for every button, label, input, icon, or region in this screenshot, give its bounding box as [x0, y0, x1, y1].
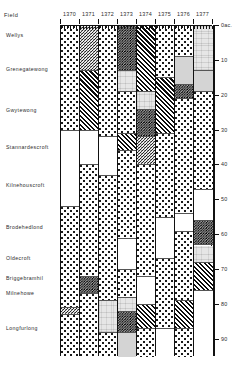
plot-cell-1377-lightgray	[194, 26, 213, 71]
acre-tick-20	[213, 95, 219, 96]
acre-label-30: 30	[221, 127, 228, 133]
plot-cell-1373-hatch	[118, 134, 136, 151]
plot-cell-1376-hatch	[175, 301, 193, 329]
plot-cell-1371-dense	[80, 277, 98, 294]
plot-cell-1373-dots	[118, 151, 136, 238]
plot-cell-1376-dense	[175, 85, 193, 99]
acre-label-10: 10	[221, 57, 228, 63]
acreage-axis-line	[213, 25, 215, 356]
year-column-1376	[175, 26, 194, 355]
field-label-stannardescroft: Stannardescroft	[6, 144, 49, 150]
year-label-1372: 1372	[101, 11, 114, 17]
field-label-milnehowe: Milnehowe	[6, 290, 34, 296]
field-label-oldecroft: Oldecroft	[6, 255, 31, 261]
column-top-serration	[118, 26, 136, 29]
plot-cell-1376-dots	[175, 26, 193, 57]
acre-label-60: 60	[221, 231, 228, 237]
plot-cell-1371-dots	[80, 294, 98, 357]
year-tick-1370	[60, 19, 61, 24]
field-label-briggebramhil: Briggebramhil	[6, 275, 43, 281]
year-tick-end	[212, 19, 213, 24]
column-top-serration	[99, 26, 117, 29]
plot-cell-1372-dots	[99, 176, 117, 301]
plot-cell-1374-dots	[137, 165, 155, 276]
plot-cell-1374-lightgray	[137, 92, 155, 109]
acre-label-70: 70	[221, 266, 228, 272]
plot-cell-1371-hatch	[80, 71, 98, 130]
plot-cell-1377-dots	[194, 92, 213, 190]
plot-cell-1373-lightgray	[118, 71, 136, 92]
acre-label-80: 80	[221, 301, 228, 307]
plot-cell-1370-stipple	[61, 308, 79, 315]
column-top-serration	[175, 26, 193, 29]
field-column-header: Field	[4, 12, 18, 18]
plot-cell-1373-dots	[118, 270, 136, 298]
year-tick-1372	[98, 19, 99, 24]
plot-cell-1373-dense	[118, 312, 136, 333]
acre-tick-10	[213, 60, 219, 61]
column-top-serration	[194, 26, 213, 29]
plot-cell-1372-dots	[99, 26, 117, 137]
plot-cell-1373-dense	[118, 26, 136, 71]
acre-tick-60	[213, 234, 219, 235]
year-label-1371: 1371	[82, 11, 95, 17]
plot-cell-1377-blank	[194, 190, 213, 221]
plot-cell-1374-dense	[137, 110, 155, 138]
plot-cell-1374-blank	[137, 277, 155, 305]
plot-cell-1371-blank	[80, 131, 98, 166]
year-column-1375	[156, 26, 175, 355]
plot-cell-1370-dots	[61, 315, 79, 357]
plot-cell-1374-dots	[137, 329, 155, 357]
plot-cell-1376-dots	[175, 99, 193, 214]
column-top-serration	[80, 26, 98, 29]
acre-tick-40	[213, 164, 219, 165]
column-top-serration	[61, 26, 79, 29]
year-label-1370: 1370	[63, 11, 76, 17]
plot-cell-1376-dots	[175, 329, 193, 357]
plot-cell-1373-gray	[118, 333, 136, 357]
plot-cell-1372-dots	[99, 333, 117, 357]
field-label-grenegatewong: Grenegatewong	[6, 66, 48, 72]
acre-tick-30	[213, 130, 219, 131]
land-use-plot	[60, 25, 212, 356]
field-label-wellys: Wellys	[6, 32, 24, 38]
year-tick-1371	[79, 19, 80, 24]
plot-cell-1373-blank	[118, 239, 136, 270]
year-tick-1374	[136, 19, 137, 24]
acre-tick-80	[213, 304, 219, 305]
acre-tick-50	[213, 199, 219, 200]
year-tick-1373	[117, 19, 118, 24]
plot-cell-1376-gray	[175, 57, 193, 85]
year-column-1377	[194, 26, 213, 355]
plot-cell-1376-blank	[175, 214, 193, 231]
plot-cell-1370-dots	[61, 26, 79, 131]
year-column-1371	[80, 26, 99, 355]
plot-cell-1374-hatch	[137, 305, 155, 329]
plot-cell-1373-dots	[118, 92, 136, 134]
field-label-kilnehouscroft: Kilnehouscroft	[6, 182, 44, 188]
acre-tick-90	[213, 339, 219, 340]
year-column-1373	[118, 26, 137, 355]
plot-cell-1377-blank	[194, 291, 213, 357]
plot-cell-1376-dots	[175, 232, 193, 302]
acre-label-20: 20	[221, 92, 228, 98]
plot-cell-1375-hatch	[156, 78, 174, 134]
plot-cell-1377-hatch	[194, 263, 213, 291]
column-top-serration	[156, 26, 174, 29]
acre-label-50: 50	[221, 196, 228, 202]
year-label-1374: 1374	[139, 11, 152, 17]
plot-cell-1371-dots	[80, 165, 98, 276]
year-tick-1375	[155, 19, 156, 24]
year-label-1376: 1376	[177, 11, 190, 17]
year-tick-1377	[193, 19, 194, 24]
plot-cell-1375-dots	[156, 26, 174, 78]
field-label-brodehedlond: Brodehedlond	[6, 224, 43, 230]
plot-cell-1377-dense	[194, 221, 213, 245]
acre-tick-0	[213, 25, 219, 26]
year-column-1370	[61, 26, 80, 355]
year-label-1375: 1375	[158, 11, 171, 17]
column-top-serration	[137, 26, 155, 29]
plot-cell-1370-blank	[61, 131, 79, 208]
year-column-1374	[137, 26, 156, 355]
plot-cell-1374-hatch	[137, 26, 155, 92]
